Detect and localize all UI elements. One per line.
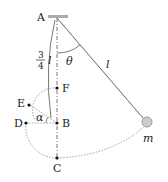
fraction-denominator: 4 [38, 61, 44, 71]
pendulum-diagram: A F B C D E θ l α m 3 4 l [0, 0, 168, 182]
pendulum-bob [142, 117, 152, 127]
point-B-dot [55, 121, 58, 124]
label-alpha: α [36, 111, 44, 124]
fraction-l: l [48, 54, 52, 67]
label-theta: θ [66, 55, 73, 68]
label-B: B [62, 117, 70, 130]
length-bracket [48, 20, 55, 118]
label-mass: m [143, 132, 153, 145]
label-F: F [62, 82, 70, 95]
theta-arc [57, 45, 80, 53]
radius-BE [30, 105, 57, 123]
point-E-dot [27, 103, 30, 106]
label-C: C [53, 162, 61, 175]
point-C-dot [55, 156, 58, 159]
pendulum-string [57, 18, 143, 118]
label-A: A [36, 11, 46, 24]
fraction-numerator: 3 [38, 50, 44, 60]
alpha-arc [46, 117, 48, 123]
label-D: D [14, 117, 23, 130]
point-D-dot [24, 121, 27, 124]
ceiling-support [48, 15, 68, 18]
label-E: E [17, 97, 25, 110]
label-l: l [106, 58, 110, 71]
large-arc [57, 127, 144, 158]
small-arc-lower [26, 123, 57, 158]
point-F-dot [55, 86, 58, 89]
